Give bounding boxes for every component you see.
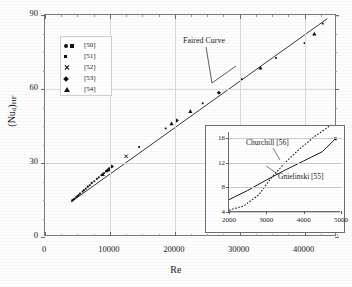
inset-panel: 4812162000300040005000 Churchill [56] Gn… [205, 125, 345, 233]
chart-root: (Nud)HF Re 010000200003000040000 0306090… [0, 0, 352, 287]
inset-leader-lines [206, 126, 346, 234]
